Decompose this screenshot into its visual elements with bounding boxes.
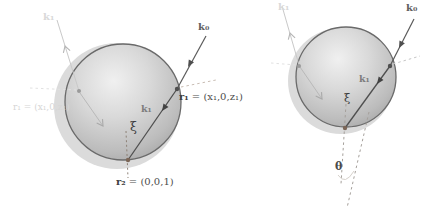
left-xi-label: ξ	[130, 121, 137, 134]
left-k1-label: k₁	[141, 104, 152, 114]
left-sphere	[65, 44, 181, 160]
right-diagram	[271, 6, 420, 208]
right-k1-label: k₁	[359, 74, 370, 84]
left-r1-label: r₁ = (x₁,0,z₁)	[179, 92, 243, 102]
left-ghost-k-label: k₁	[43, 12, 54, 22]
left-ghost-r1-label: r₁ = (x₁,0,z₁)	[13, 103, 70, 112]
right-ghost-k-label: k₁	[278, 2, 289, 12]
right-entry-dashed-line	[393, 56, 420, 64]
left-r2-symbol: r₂	[116, 176, 126, 187]
right-ghost-exit-ray	[282, 6, 299, 65]
left-r2-value: = (0,0,1)	[126, 176, 174, 187]
right-r2-point	[343, 126, 347, 130]
left-r2-point	[126, 158, 130, 162]
theta-label: θ	[335, 161, 342, 172]
left-r1-value: = (x₁,0,z₁)	[189, 91, 243, 102]
right-r1-point	[388, 64, 392, 68]
right-k0-label: k₀	[406, 3, 417, 13]
right-exit-point	[297, 64, 301, 68]
right-xi-label: ξ	[344, 93, 350, 105]
scattering-figure: k₀ k₁ ξ r₁ = (x₁,0,z₁) r₂ = (0,0,1) r₁ =…	[0, 0, 436, 210]
left-k0-label: k₀	[198, 22, 209, 32]
left-r1-symbol: r₁	[179, 91, 189, 102]
left-exit-point	[77, 89, 81, 93]
left-entry-dashed-line	[181, 80, 216, 87]
left-r2-label: r₂ = (0,0,1)	[116, 177, 174, 187]
